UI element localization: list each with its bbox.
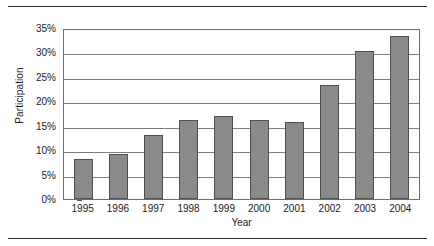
bar-chart: Participation 0%5%10%15%20%25%30%35% 199…	[0, 14, 434, 232]
bar-2000[interactable]	[250, 120, 269, 199]
y-tick-label: 0%	[20, 195, 56, 205]
top-divider-rule	[8, 6, 427, 7]
x-tick-label: 2002	[312, 203, 347, 214]
x-tick-label: 2001	[277, 203, 312, 214]
x-tick-label: 1999	[206, 203, 241, 214]
figure-container: Participation 0%5%10%15%20%25%30%35% 199…	[0, 0, 434, 246]
bar-1998[interactable]	[179, 120, 198, 199]
bar-1999[interactable]	[214, 116, 233, 199]
x-axis-title: Year	[63, 217, 420, 228]
y-tick-label: 15%	[20, 122, 56, 132]
x-tick-label: 2004	[383, 203, 418, 214]
y-axis-tick-labels: 0%5%10%15%20%25%30%35%	[20, 29, 56, 200]
y-tick-label: 20%	[20, 97, 56, 107]
bar-slot	[101, 30, 136, 199]
bar-slot	[66, 30, 101, 199]
bar-series	[64, 30, 419, 199]
y-tick-label: 5%	[20, 171, 56, 181]
x-tick-label: 2000	[241, 203, 276, 214]
bar-2001[interactable]	[285, 122, 304, 199]
y-tick-label: 35%	[20, 24, 56, 34]
bar-slot	[171, 30, 206, 199]
y-tick-label: 25%	[20, 73, 56, 83]
bar-slot	[277, 30, 312, 199]
bar-slot	[241, 30, 276, 199]
x-tick-label: 1995	[65, 203, 100, 214]
bar-slot	[206, 30, 241, 199]
x-axis-tick-labels: 1995199619971998199920002001200220032004	[63, 203, 420, 214]
x-tick-label: 1998	[171, 203, 206, 214]
plot-area	[63, 29, 420, 200]
x-tick-label: 1996	[100, 203, 135, 214]
bar-slot	[312, 30, 347, 199]
bar-2003[interactable]	[355, 51, 374, 199]
bar-2002[interactable]	[320, 85, 339, 199]
y-tick-mark	[77, 200, 82, 201]
bar-2004[interactable]	[390, 36, 409, 199]
x-tick-label: 2003	[347, 203, 382, 214]
y-tick-label: 10%	[20, 146, 56, 156]
bar-1997[interactable]	[144, 135, 163, 199]
bar-slot	[136, 30, 171, 199]
x-tick-label: 1997	[136, 203, 171, 214]
bar-1996[interactable]	[109, 154, 128, 199]
bar-slot	[382, 30, 417, 199]
bottom-divider-rule	[8, 238, 427, 239]
bar-slot	[347, 30, 382, 199]
bar-1995[interactable]	[74, 159, 93, 199]
y-tick-label: 30%	[20, 48, 56, 58]
